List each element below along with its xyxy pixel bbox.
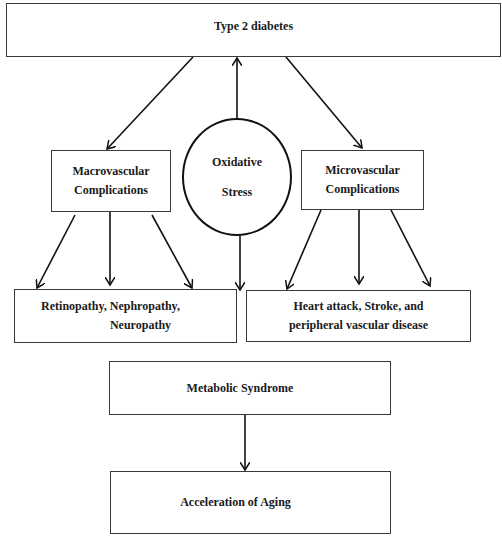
node-label: Neuropathy (110, 316, 171, 335)
node-label: Oxidative (212, 147, 262, 177)
arrow-micro-to-heart-left (287, 210, 321, 289)
arrow-macro-to-retino-right (152, 215, 192, 288)
diagram-edges (0, 0, 502, 543)
node-label: Retinopathy, Nephropathy, (41, 297, 180, 316)
arrow-macro-to-retino-left (37, 215, 75, 288)
node-acceleration-of-aging: Acceleration of Aging (110, 471, 391, 534)
arrow-type2-to-macro (107, 57, 193, 149)
node-label: Metabolic Syndrome (187, 379, 294, 398)
node-oxidative-stress: Oxidative Stress (182, 118, 292, 236)
node-label: Microvascular (325, 161, 399, 180)
node-macrovascular-complications: Macrovascular Complications (51, 150, 171, 212)
node-label: Complications (325, 180, 399, 199)
node-type-2-diabetes: Type 2 diabetes (6, 3, 501, 57)
node-label: Complications (74, 181, 148, 200)
node-label: Stress (222, 177, 252, 207)
arrow-type2-to-micro (286, 57, 362, 148)
node-metabolic-syndrome: Metabolic Syndrome (109, 361, 391, 415)
node-microvascular-complications: Microvascular Complications (301, 150, 424, 210)
arrow-micro-to-heart-right (391, 210, 430, 286)
node-label: Heart attack, Stroke, and (293, 297, 423, 316)
node-heart-attack-stroke-pvd: Heart attack, Stroke, and peripheral vas… (246, 290, 471, 342)
node-label: Acceleration of Aging (180, 493, 291, 512)
node-label: Macrovascular (72, 162, 149, 181)
node-label: Type 2 diabetes (214, 17, 293, 36)
node-retinopathy-nephropathy-neuropathy: Retinopathy, Nephropathy, Neuropathy (14, 289, 237, 343)
node-label: peripheral vascular disease (289, 316, 428, 335)
